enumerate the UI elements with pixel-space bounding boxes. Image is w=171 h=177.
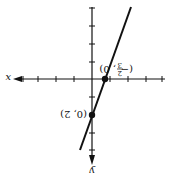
x-axis: x	[5, 73, 165, 84]
y-axis-arrow-icon	[89, 155, 95, 165]
point-x-intercept-label: (− 2 3 , 0)	[99, 61, 133, 77]
point-y-intercept	[89, 112, 95, 118]
y-axis: y	[89, 7, 96, 177]
svg-text:2: 2	[118, 69, 122, 77]
svg-text:, 0): , 0)	[99, 64, 116, 75]
svg-text:3: 3	[118, 61, 122, 69]
point-x-intercept	[102, 76, 108, 82]
x-axis-arrow-icon	[13, 76, 22, 82]
graph-figure: x y (0, 2) (− 2	[0, 0, 171, 177]
y-axis-label: y	[89, 166, 96, 177]
x-axis-label: x	[5, 73, 11, 84]
point-y-intercept-label: (0, 2)	[60, 109, 87, 120]
